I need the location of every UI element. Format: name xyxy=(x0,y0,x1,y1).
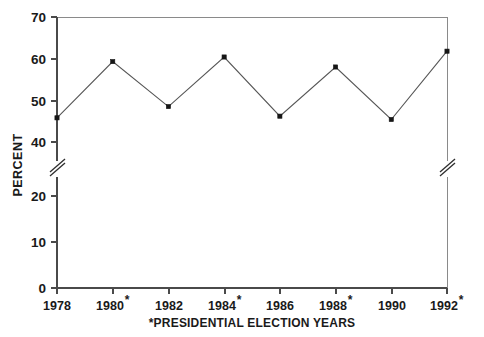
data-point-1988 xyxy=(333,65,337,69)
chart-container: 70 60 50 40 20 10 0 PERCENT xyxy=(0,0,484,337)
data-point-1986 xyxy=(278,114,282,118)
data-point-1982 xyxy=(166,104,170,108)
footnote-presidential-election-years: *PRESIDENTIAL ELECTION YEARS xyxy=(149,316,356,330)
data-point-markers xyxy=(55,49,449,122)
y-axis-title: PERCENT xyxy=(11,133,25,196)
data-point-1984 xyxy=(222,55,226,59)
y-axis-break-mark-left xyxy=(50,159,65,177)
x-tick-star-1992: * xyxy=(459,293,464,307)
y-tick-label-40: 40 xyxy=(31,135,46,150)
y-tick-label-60: 60 xyxy=(31,52,46,67)
x-tick-star-1980: * xyxy=(125,293,130,307)
x-tick-label-1990: 1990 xyxy=(378,299,406,313)
y-tick-label-10: 10 xyxy=(31,235,46,250)
x-tick-label-1978: 1978 xyxy=(43,299,71,313)
x-tick-star-1988: * xyxy=(348,293,353,307)
x-tick-label-1982: 1982 xyxy=(155,299,183,313)
y-tick-label-0: 0 xyxy=(38,281,46,296)
y-axis-break-mark-right xyxy=(440,159,455,177)
x-tick-label-1988: 1988 xyxy=(319,299,347,313)
y-tick-label-20: 20 xyxy=(31,189,46,204)
x-tick-label-1986: 1986 xyxy=(266,299,294,313)
y-tick-label-50: 50 xyxy=(31,94,46,109)
x-tick-label-1984: 1984 xyxy=(208,299,236,313)
data-point-1978 xyxy=(55,116,59,120)
data-series-line xyxy=(57,51,447,119)
x-tick-star-1984: * xyxy=(237,293,242,307)
x-axis-tick-labels: 1978 1980 * 1982 1984 * 1986 1988 * 1990… xyxy=(43,293,464,313)
x-axis-ticks xyxy=(57,288,447,294)
data-point-1992 xyxy=(445,49,449,53)
data-point-1980 xyxy=(111,59,115,63)
y-axis-ticks xyxy=(51,17,57,288)
data-point-1990 xyxy=(389,117,393,121)
x-tick-label-1992: 1992 xyxy=(430,299,458,313)
y-tick-label-70: 70 xyxy=(31,10,46,25)
x-tick-label-1980: 1980 xyxy=(96,299,124,313)
line-chart-figure: 70 60 50 40 20 10 0 PERCENT xyxy=(0,0,484,337)
